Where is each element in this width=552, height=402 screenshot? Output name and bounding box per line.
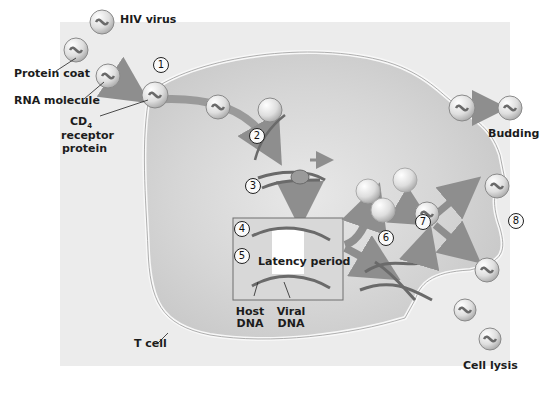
hiv-lifecycle-diagram: HIV virus Protein coat RNA molecule CD4 … bbox=[0, 0, 552, 402]
step-6-marker: 6 bbox=[378, 230, 394, 246]
step-2-marker: 2 bbox=[249, 128, 265, 144]
step-4-marker: 4 bbox=[234, 221, 250, 237]
step-1-marker: 1 bbox=[153, 57, 169, 73]
step-8-marker: 8 bbox=[508, 213, 524, 229]
label-host-dna: DNA bbox=[235, 318, 265, 330]
step-5-marker: 5 bbox=[234, 248, 250, 264]
label-protein-coat: Protein coat bbox=[14, 68, 90, 80]
label-rna-molecule: RNA molecule bbox=[14, 95, 100, 107]
label-protein: protein bbox=[62, 143, 107, 155]
step-3-marker: 3 bbox=[245, 178, 261, 194]
label-latency-period: Latency period bbox=[258, 256, 350, 268]
label-cell-lysis: Cell lysis bbox=[463, 360, 518, 372]
label-t-cell: T cell bbox=[134, 338, 167, 350]
label-viral-dna: DNA bbox=[276, 318, 306, 330]
label-budding: Budding bbox=[488, 128, 539, 140]
diagram-artwork bbox=[0, 0, 552, 402]
step-7-marker: 7 bbox=[415, 214, 431, 230]
label-receptor: receptor bbox=[61, 130, 114, 142]
label-hiv-virus: HIV virus bbox=[120, 14, 176, 26]
